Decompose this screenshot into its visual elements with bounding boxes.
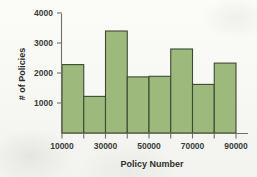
y-tick-label: 3000: [34, 38, 53, 48]
x-tick-label: 30000: [94, 141, 118, 151]
y-axis-title: # of Policies: [17, 48, 27, 101]
x-tick-label: 10000: [50, 141, 74, 151]
x-axis-title: Policy Number: [120, 159, 184, 169]
histogram-bar: [149, 76, 171, 133]
bar-series: [62, 31, 236, 133]
chart-canvas: 1000200030004000 10000300005000070000900…: [0, 0, 257, 177]
y-tick-label: 4000: [34, 8, 53, 18]
histogram-bar: [214, 63, 236, 133]
histogram-bar: [106, 31, 128, 133]
y-axis-ticks: 1000200030004000: [34, 8, 62, 108]
histogram-bar: [127, 77, 149, 133]
x-tick-label: 50000: [137, 141, 161, 151]
x-axis-ticks: 1000030000500007000090000: [50, 134, 248, 152]
y-tick-label: 2000: [34, 68, 53, 78]
histogram-bar: [62, 65, 84, 133]
histogram-bar: [193, 84, 215, 133]
y-tick-label: 1000: [34, 98, 53, 108]
x-tick-label: 70000: [181, 141, 205, 151]
histogram-figure: 1000200030004000 10000300005000070000900…: [0, 0, 257, 177]
histogram-bar: [84, 96, 106, 133]
histogram-bar: [171, 49, 193, 133]
x-tick-label: 90000: [224, 141, 248, 151]
